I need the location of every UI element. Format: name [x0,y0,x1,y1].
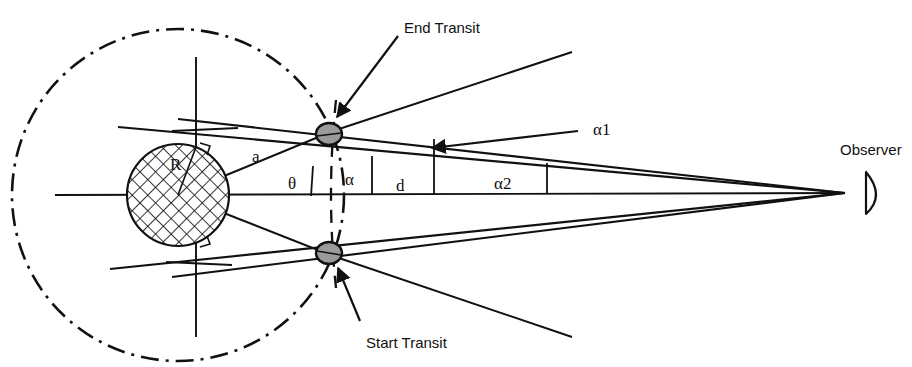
end-transit-callout-arrow [337,36,398,117]
alpha1-callout-arrow [432,131,578,148]
diagram-canvas: End Transit Start Transit Observer α1 α2… [0,0,912,367]
theta-label: θ [288,174,296,193]
observer-eye-icon [866,172,876,214]
star-bottom-tangent-stub [166,262,232,265]
upper-inner-sight-line [178,119,845,193]
observer-label: Observer [840,141,902,158]
alpha1-label: α1 [593,120,610,139]
alpha2-label: α2 [494,174,511,193]
star-radius-label: R [170,155,182,174]
semi-major-axis-extension-lower [333,256,572,337]
lower-inner-sight-line [172,193,845,277]
star-top-tangent-stub [172,128,238,131]
start-transit-label: Start Transit [366,334,448,351]
end-transit-label: End Transit [404,19,481,36]
semi-major-axis-extension-upper [333,52,572,131]
distance-d-label: d [396,176,405,195]
transit-geometry-diagram: End Transit Start Transit Observer α1 α2… [0,0,912,367]
alpha-label: α [345,170,354,189]
angle-tick-theta-alpha [311,166,313,196]
start-transit-callout-arrow [338,268,360,321]
semi-major-axis-label: a [252,147,260,166]
